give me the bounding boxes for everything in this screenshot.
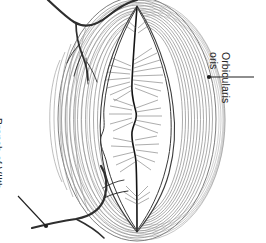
label-nerve-branch: Branch of VIIth cranial nerve (0, 118, 3, 189)
label-orbicularis-oris-line1: Orbicularis (220, 52, 232, 103)
leader-dot-nerve (44, 224, 48, 228)
label-nerve-branch-line1: Branch of VIIth (0, 118, 3, 189)
label-orbicularis-oris-line2: oris (208, 52, 220, 103)
orbicularis-oris-drawing (0, 0, 266, 243)
label-orbicularis-oris: Orbicularis oris (208, 52, 231, 103)
anatomical-figure: Orbicularis oris Branch of VIIth cranial… (0, 0, 266, 243)
